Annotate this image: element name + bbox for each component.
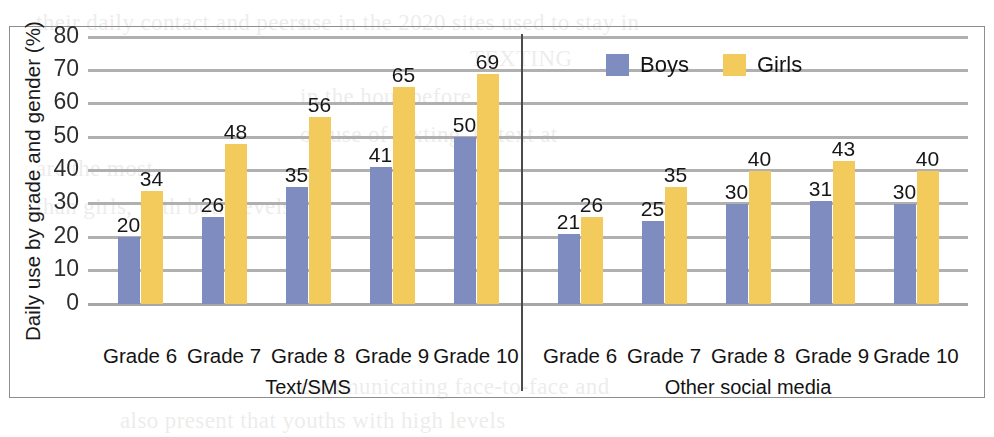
bar-girls: 35 — [665, 187, 687, 304]
bar-value-label: 56 — [308, 94, 331, 115]
bar-boys: 31 — [810, 201, 832, 304]
bar-group: 3040 — [894, 37, 939, 304]
y-axis-tick-label: 0 — [66, 291, 79, 314]
legend-label: Girls — [757, 54, 802, 76]
x-axis-category-label: Grade 8 — [271, 345, 345, 367]
bar-boys: 21 — [558, 234, 580, 304]
y-axis-tick-label: 20 — [53, 224, 79, 247]
panel-divider — [521, 34, 523, 391]
background-text-line: also present that youths with high level… — [120, 404, 506, 437]
bar-group: 3143 — [810, 37, 855, 304]
bar-group: 2034 — [118, 37, 163, 304]
bar-girls: 26 — [581, 217, 603, 304]
bar-group: 3556 — [286, 37, 331, 304]
chart-legend: BoysGirls — [606, 54, 802, 76]
panel-label: Other social media — [665, 376, 832, 398]
legend-item-boys: Boys — [606, 54, 689, 76]
bar-girls: 65 — [393, 87, 415, 304]
bar-group: 2126 — [558, 37, 603, 304]
bar-value-label: 31 — [809, 178, 832, 199]
x-axis-category-label: Grade 9 — [795, 345, 869, 367]
x-axis-category-label: Grade 9 — [355, 345, 429, 367]
legend-label: Boys — [640, 54, 689, 76]
y-axis-tick-label: 70 — [53, 57, 79, 80]
bar-value-label: 21 — [557, 211, 580, 232]
bar-value-label: 25 — [641, 198, 664, 219]
bar-boys: 50 — [454, 137, 476, 304]
x-axis-category-label: Grade 7 — [187, 345, 261, 367]
y-axis-tick-label: 30 — [53, 190, 79, 213]
x-axis-category-label: Grade 10 — [433, 345, 518, 367]
bar-value-label: 30 — [725, 181, 748, 202]
bar-value-label: 40 — [748, 148, 771, 169]
bar-group: 5069 — [454, 37, 499, 304]
bar-girls: 43 — [833, 161, 855, 305]
bar-girls: 40 — [917, 171, 939, 305]
plot-area: 807060504030201002034Grade 62648Grade 73… — [88, 37, 968, 304]
x-axis-category-label: Grade 7 — [627, 345, 701, 367]
legend-swatch-boys — [606, 54, 629, 76]
bar-group: 2535 — [642, 37, 687, 304]
bar-girls: 69 — [477, 74, 499, 304]
bar-value-label: 50 — [453, 114, 476, 135]
y-axis-tick-label: 80 — [53, 24, 79, 47]
y-axis-title: Daily use by grade and gender (%) — [20, 36, 46, 326]
x-axis-category-label: Grade 6 — [543, 345, 617, 367]
bar-value-label: 41 — [369, 144, 392, 165]
bar-value-label: 26 — [580, 194, 603, 215]
legend-swatch-girls — [723, 54, 746, 76]
bar-value-label: 40 — [916, 148, 939, 169]
panel-label: Text/SMS — [265, 376, 351, 398]
bar-boys: 35 — [286, 187, 308, 304]
bar-boys: 41 — [370, 167, 392, 304]
legend-item-girls: Girls — [723, 54, 802, 76]
bar-boys: 30 — [894, 204, 916, 304]
bar-group: 4165 — [370, 37, 415, 304]
bar-value-label: 69 — [476, 51, 499, 72]
bar-girls: 40 — [749, 171, 771, 305]
y-axis-tick-label: 60 — [53, 90, 79, 113]
bar-value-label: 26 — [201, 194, 224, 215]
bar-girls: 48 — [225, 144, 247, 304]
bar-value-label: 20 — [117, 214, 140, 235]
x-axis-category-label: Grade 6 — [103, 345, 177, 367]
bar-value-label: 65 — [392, 64, 415, 85]
bar-value-label: 48 — [224, 121, 247, 142]
x-axis-category-label: Grade 8 — [711, 345, 785, 367]
bar-boys: 25 — [642, 221, 664, 304]
x-axis-category-label: Grade 10 — [873, 345, 958, 367]
y-axis-title-text: Daily use by grade and gender (%) — [21, 21, 45, 341]
bar-boys: 26 — [202, 217, 224, 304]
bar-boys: 30 — [726, 204, 748, 304]
bar-value-label: 35 — [664, 164, 687, 185]
bar-value-label: 43 — [832, 138, 855, 159]
bar-value-label: 34 — [140, 168, 163, 189]
bar-value-label: 35 — [285, 164, 308, 185]
bar-value-label: 30 — [893, 181, 916, 202]
y-axis-tick-label: 10 — [53, 257, 79, 280]
bar-girls: 34 — [141, 191, 163, 304]
bar-group: 2648 — [202, 37, 247, 304]
bar-group: 3040 — [726, 37, 771, 304]
bar-girls: 56 — [309, 117, 331, 304]
y-axis-tick-label: 50 — [53, 124, 79, 147]
bar-boys: 20 — [118, 237, 140, 304]
y-axis-tick-label: 40 — [53, 157, 79, 180]
